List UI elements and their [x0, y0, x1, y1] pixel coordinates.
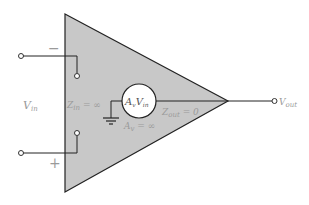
op-amp-diagram: − + Vin Zin = ∞ AvVin Zout = 0 Av = ∞ Vo…	[0, 0, 309, 205]
minus-sign: −	[48, 40, 60, 56]
vout-label: Vout	[279, 97, 297, 109]
vin-label: Vin	[23, 99, 38, 113]
plus-sign: +	[49, 155, 61, 171]
